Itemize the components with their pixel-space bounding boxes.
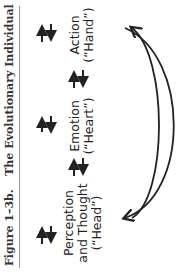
evolutionary-individual-diagram: Figure 1–3b. The Evolutionary Individual…	[0, 0, 184, 276]
feedback-arcs	[0, 0, 184, 276]
